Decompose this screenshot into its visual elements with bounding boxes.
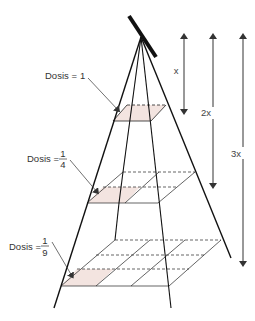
distance-label-3x: 3x — [231, 148, 241, 159]
dose-label-1-9-numerator: 1 — [42, 235, 47, 246]
dose-label-1-9-prefix: Dosis = — [9, 241, 41, 252]
dose-label-1-prefix: Dosis = — [45, 70, 77, 81]
dose-label-1-value: 1 — [80, 70, 85, 81]
dose-label-1-4-prefix: Dosis = — [27, 153, 59, 164]
distance-label-2x: 2x — [201, 107, 211, 118]
inverse-square-law-diagram: x 2x 3x Dosis = 1 Dosis = 1 4 Dosis = 1 … — [0, 0, 255, 321]
distance-label-x: x — [174, 65, 179, 76]
beam-inner-lines — [115, 37, 171, 308]
dose-label-1-4-numerator: 1 — [60, 148, 65, 159]
dose-label-1-4-denominator: 4 — [60, 159, 65, 170]
dose-label-1-9: Dosis = 1 9 — [9, 235, 49, 258]
dose-label-1: Dosis = 1 — [45, 70, 85, 81]
shaded-areas — [61, 105, 166, 286]
dose-label-1-4: Dosis = 1 4 — [27, 148, 67, 170]
dose-label-1-9-denominator: 9 — [42, 247, 47, 258]
